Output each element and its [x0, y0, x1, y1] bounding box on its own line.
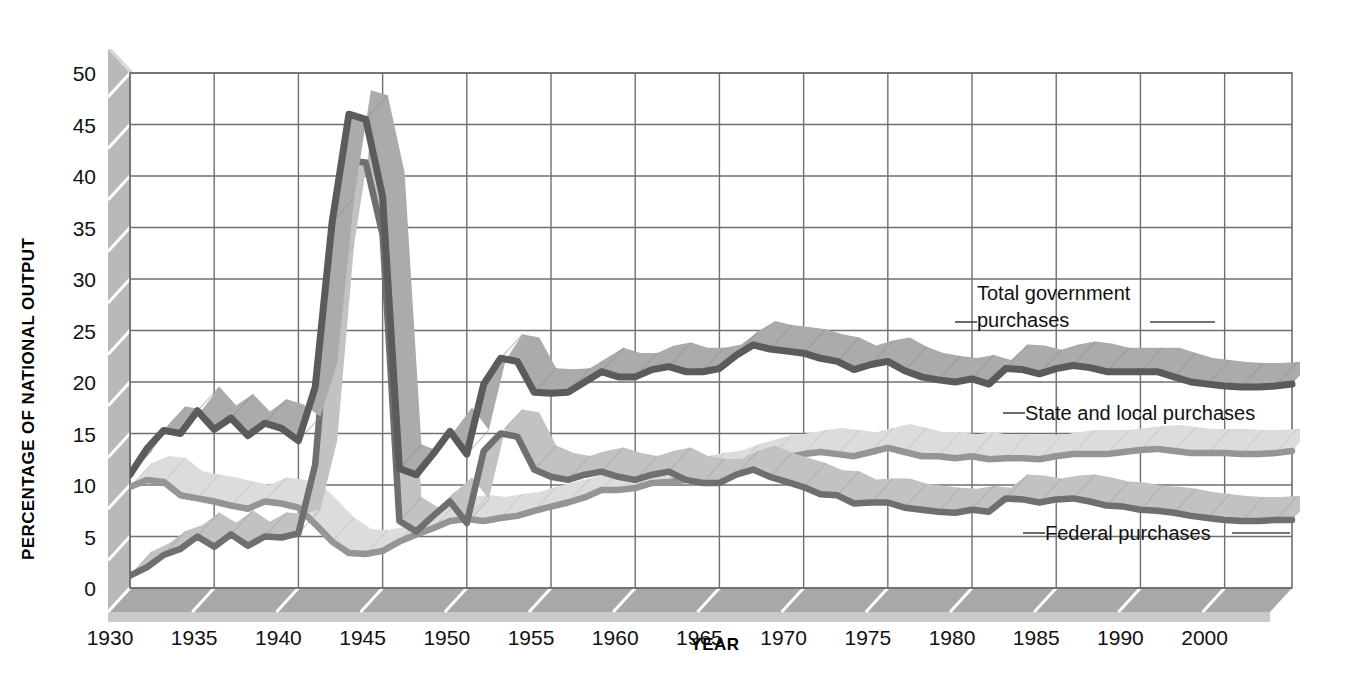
y-tick-label: 30: [73, 268, 96, 291]
x-tick-label: 1950: [423, 626, 470, 649]
x-tick-label: 1935: [171, 626, 218, 649]
annotation-federal: Federal purchases: [1045, 522, 1211, 544]
x-axis-title: YEAR: [691, 635, 740, 654]
chart-figure: 05101520253035404550 1930193519401945195…: [0, 0, 1356, 686]
x-tick-label: 1980: [929, 626, 976, 649]
x-tick-label: 2000: [1181, 626, 1228, 649]
x-tick-label: 1930: [87, 626, 134, 649]
y-axis-tick-labels: 05101520253035404550: [73, 62, 96, 600]
x-tick-label: 1955: [508, 626, 555, 649]
annotation-total-line1: Total government: [977, 282, 1131, 304]
series-group: [130, 90, 1314, 575]
x-tick-label: 1990: [1097, 626, 1144, 649]
y-tick-label: 40: [73, 165, 96, 188]
axis-floor: [108, 588, 1292, 622]
y-tick-label: 20: [73, 371, 96, 394]
y-axis-title: PERCENTAGE OF NATIONAL OUTPUT: [19, 237, 38, 560]
y-tick-label: 25: [73, 320, 96, 343]
y-tick-label: 10: [73, 474, 96, 497]
x-axis-tick-labels: 1930193519401945195019551960196519701975…: [87, 626, 1228, 649]
annotation-state-and-local: State and local purchases: [1025, 402, 1255, 424]
y-tick-label: 35: [73, 217, 96, 240]
y-tick-label: 5: [84, 526, 96, 549]
y-tick-label: 15: [73, 423, 96, 446]
x-tick-label: 1975: [844, 626, 891, 649]
annotation-total-line2: purchases: [977, 309, 1069, 331]
y-tick-label: 0: [84, 577, 96, 600]
annotation-total-government: Total government purchases: [977, 282, 1131, 331]
x-tick-label: 1940: [255, 626, 302, 649]
x-tick-label: 1985: [1013, 626, 1060, 649]
line-chart: 05101520253035404550 1930193519401945195…: [0, 0, 1356, 686]
y-tick-label: 45: [73, 114, 96, 137]
x-tick-label: 1970: [760, 626, 807, 649]
x-tick-label: 1945: [339, 626, 386, 649]
x-tick-label: 1960: [592, 626, 639, 649]
y-tick-label: 50: [73, 62, 96, 85]
